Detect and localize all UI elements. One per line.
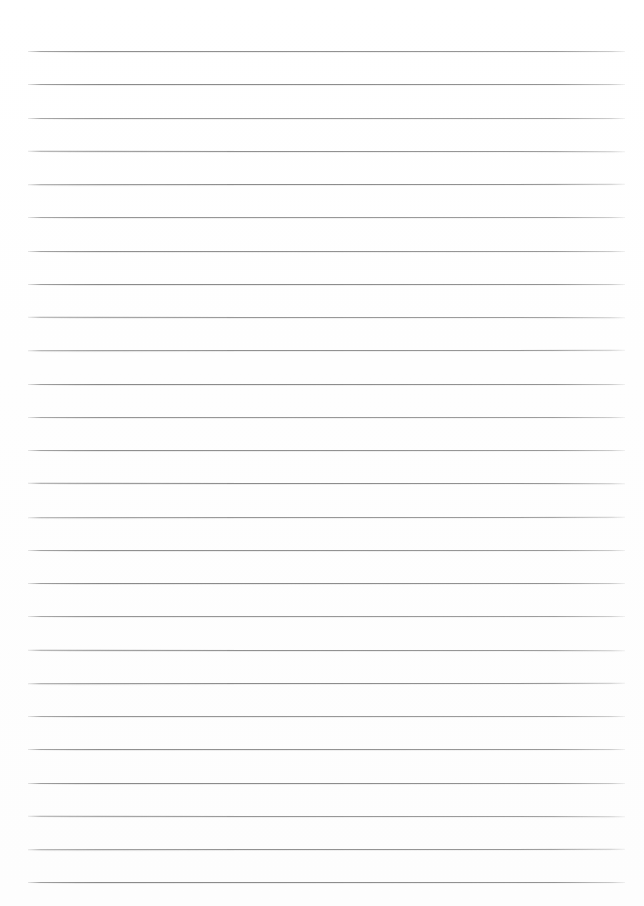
- ruled-line: [28, 517, 625, 518]
- ruled-line: [28, 350, 625, 351]
- ruled-line: [28, 816, 625, 817]
- ruled-line: [28, 217, 625, 218]
- ruled-line: [28, 650, 625, 651]
- ruled-line: [28, 417, 625, 418]
- ruled-line: [28, 583, 625, 584]
- ruled-line: [28, 317, 625, 318]
- ruled-line: [28, 616, 625, 617]
- ruled-line: [28, 184, 625, 185]
- lined-paper-page: [0, 0, 644, 906]
- ruled-line: [28, 882, 625, 883]
- ruled-line: [28, 483, 625, 484]
- ruled-line: [28, 118, 625, 119]
- ruled-line: [28, 450, 625, 451]
- ruled-line: [28, 251, 625, 252]
- ruled-line: [28, 716, 625, 717]
- ruled-line: [28, 384, 625, 385]
- ruled-line: [28, 51, 625, 52]
- ruled-line: [28, 284, 625, 285]
- ruled-line: [28, 84, 625, 85]
- ruled-line: [28, 151, 625, 152]
- ruled-line: [28, 849, 625, 850]
- ruled-lines-layer: [0, 0, 644, 906]
- ruled-line: [28, 783, 625, 784]
- ruled-line: [28, 683, 625, 684]
- ruled-line: [28, 550, 625, 551]
- ruled-line: [28, 749, 625, 750]
